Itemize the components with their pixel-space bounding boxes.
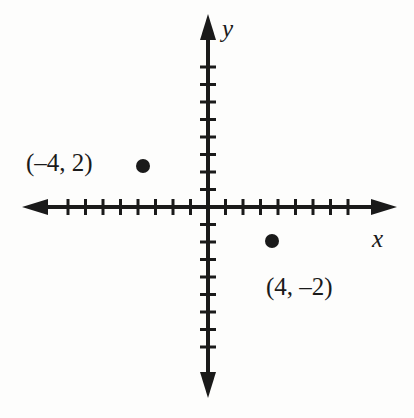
y-axis-bottom-arrow [200,372,216,398]
y-axis-top-arrow [200,14,216,40]
x-axis-label: x [372,226,383,251]
x-axis-left-arrow [22,199,48,215]
axes-group [22,14,397,398]
plotted-point-point-b [265,234,279,248]
point-label-negative-four-two: (–4, 2) [26,150,93,175]
coordinate-plane-figure: y x (–4, 2) (4, –2) [0,0,414,418]
coordinate-plane-svg [0,0,414,418]
y-axis-label: y [222,16,233,41]
plotted-point-point-a [136,159,150,173]
x-axis-right-arrow [371,199,397,215]
point-label-four-negative-two: (4, –2) [266,274,333,299]
